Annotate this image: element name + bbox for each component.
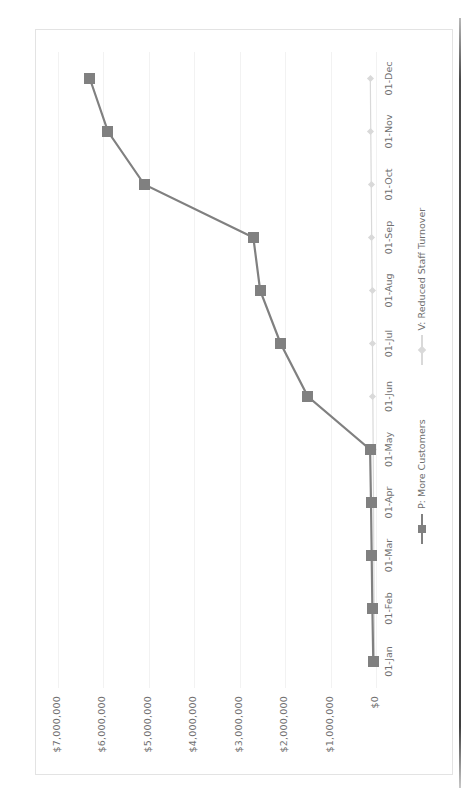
x-axis-tick-label: 01-Mar xyxy=(383,538,394,571)
y-axis-tick-label: $2,000,000 xyxy=(278,696,289,774)
y-axis-tick-label: $4,000,000 xyxy=(187,696,198,774)
x-axis-tick-label: 01-Aug xyxy=(383,273,394,307)
data-point-marker[interactable] xyxy=(248,232,259,243)
y-axis-tick-label: $7,000,000 xyxy=(51,696,62,774)
x-axis-tick-label: 01-Jan xyxy=(383,646,394,677)
chart-legend: P: More Customers V: Reduced Staff Turno… xyxy=(416,207,427,543)
chart-figure: $7,000,000$6,000,000$5,000,000$4,000,000… xyxy=(35,29,453,775)
legend-label: P: More Customers xyxy=(416,419,427,509)
y-axis-tick-label: $6,000,000 xyxy=(96,696,107,774)
data-point-marker[interactable] xyxy=(366,497,377,508)
data-point-marker[interactable] xyxy=(367,603,378,614)
data-point-marker[interactable] xyxy=(302,391,313,402)
gridline xyxy=(376,52,377,688)
plot-area xyxy=(58,52,376,688)
x-axis-tick-label: 01-Jun xyxy=(383,381,394,412)
x-axis-tick-label: 01-Feb xyxy=(383,592,394,624)
x-axis-tick-label: 01-Apr xyxy=(383,486,394,518)
data-point-marker[interactable] xyxy=(366,550,377,561)
data-point-marker[interactable] xyxy=(139,179,150,190)
series-line xyxy=(90,78,373,661)
legend-entry-p-more-customers[interactable]: P: More Customers xyxy=(416,419,427,544)
legend-entry-v-reduced-staff-turnover[interactable]: V: Reduced Staff Turnover xyxy=(416,207,427,365)
x-axis-tick-label: 01-Dec xyxy=(383,61,394,95)
y-axis-tick-label: $5,000,000 xyxy=(142,696,153,774)
data-point-marker[interactable] xyxy=(275,338,286,349)
x-axis-tick-label: 01-Nov xyxy=(383,114,394,148)
x-axis-tick-label: 01-Oct xyxy=(383,168,394,200)
x-axis-tick-label: 01-Sep xyxy=(383,220,394,253)
data-point-marker[interactable] xyxy=(255,285,266,296)
legend-swatch-square-icon xyxy=(417,514,427,544)
rotated-figure-wrapper: $7,000,000$6,000,000$5,000,000$4,000,000… xyxy=(0,0,476,803)
data-point-marker[interactable] xyxy=(365,444,376,455)
x-axis-tick-label: 01-Jul xyxy=(383,329,394,357)
series-layer xyxy=(58,52,376,688)
y-axis-tick-label: $1,000,000 xyxy=(324,696,335,774)
data-point-marker[interactable] xyxy=(368,656,379,667)
legend-swatch-diamond-icon xyxy=(417,335,427,365)
legend-label: V: Reduced Staff Turnover xyxy=(416,207,427,330)
data-point-marker[interactable] xyxy=(84,73,95,84)
y-axis-tick-label: $0 xyxy=(369,696,380,774)
y-axis-tick-label: $3,000,000 xyxy=(233,696,244,774)
data-point-marker[interactable] xyxy=(102,126,113,137)
x-axis-tick-label: 01-May xyxy=(383,431,394,466)
